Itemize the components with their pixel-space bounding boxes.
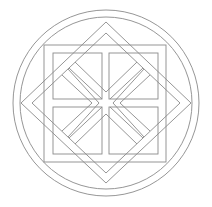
geometric-diagram <box>0 0 212 207</box>
outer-diamond <box>21 22 191 183</box>
outer-square <box>44 45 166 162</box>
diagonal-bands <box>62 62 150 144</box>
inner-square-top-right <box>109 53 158 99</box>
outer-circle <box>13 10 199 196</box>
